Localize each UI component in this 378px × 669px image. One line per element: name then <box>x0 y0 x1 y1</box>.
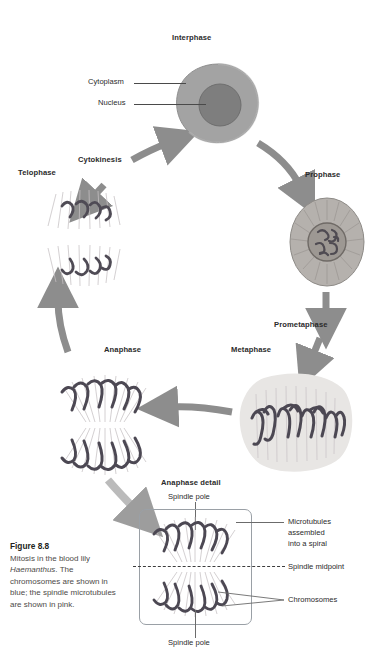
detail-label-chromosomes: Chromosomes <box>288 595 337 604</box>
figure-number: Figure 8.8 <box>10 541 122 553</box>
nucleus-shape <box>199 84 241 126</box>
arrow-interphase-to-prophase <box>258 143 300 186</box>
stage-label-interphase: Interphase <box>172 33 211 42</box>
detail-label-spindle-pole-bottom: Spindle pole <box>168 638 210 647</box>
stage-label-prophase: Prophase <box>305 170 340 179</box>
stage-label-prometaphase: Prometaphase <box>274 320 328 329</box>
leader-spindle-pole-bottom <box>195 610 196 638</box>
detail-label-microtubules-line2: assembled <box>288 528 325 537</box>
detail-label-spindle-pole-top: Spindle pole <box>168 492 210 501</box>
detail-label-microtubules-line3: into a spiral <box>288 539 327 548</box>
arrow-metaphase-to-anaphase <box>170 407 232 412</box>
leader-chromosomes <box>218 580 288 610</box>
figure-caption: Figure 8.8Mitosis in the blood lily Haem… <box>10 541 122 611</box>
stage-label-cytokinesis: Cytokinesis <box>78 155 122 164</box>
spindle-midpoint-dashed-line <box>133 566 285 567</box>
arrow-cytokinesis-to-interphase <box>132 143 168 160</box>
arrow-anaphase-to-detail <box>108 480 136 510</box>
interphase-label-cytoplasm: Cytoplasm <box>88 77 124 86</box>
prophase-cell <box>287 196 367 288</box>
caption-species: Haemanthus <box>10 565 55 574</box>
telophase-cell <box>36 182 140 292</box>
detail-title: Anaphase detail <box>161 478 221 487</box>
detail-label-spindle-midpoint: Spindle midpoint <box>288 562 344 571</box>
anaphase-cell <box>50 370 160 480</box>
interphase-label-nucleus: Nucleus <box>98 98 125 107</box>
metaphase-cell <box>236 372 356 476</box>
anaphase-chromosomes-upper <box>62 380 140 412</box>
leader-cytoplasm <box>134 83 186 84</box>
stage-label-metaphase: Metaphase <box>231 345 271 354</box>
detail-label-microtubules-line1: Microtubules <box>288 517 331 526</box>
arrow-anaphase-to-telophase <box>58 300 68 352</box>
anaphase-chromosomes-lower <box>62 438 140 470</box>
arrow-prometaphase-to-metaphase <box>312 338 320 358</box>
leader-nucleus <box>134 104 206 105</box>
stage-label-telophase: Telophase <box>18 168 56 177</box>
stage-label-anaphase: Anaphase <box>104 345 141 354</box>
caption-text-before: Mitosis in the blood lily <box>10 554 90 563</box>
leader-microtubules <box>236 522 284 523</box>
